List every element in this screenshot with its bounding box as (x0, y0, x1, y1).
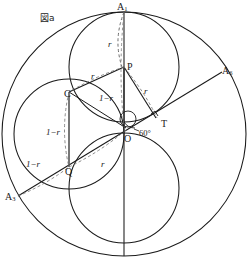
figure-container: 図a A1 A6 A3 P C T O Q r r r 1−r 1−r 1−r … (0, 0, 248, 268)
caption-box-glyph: 図a (40, 13, 55, 23)
point-t: T (161, 119, 167, 129)
point-p: P (127, 62, 133, 72)
figure-caption: 図a (40, 14, 55, 24)
length-r-qo: r (101, 160, 105, 169)
length-r-a1p: r (108, 40, 112, 49)
length-r-pt: r (144, 87, 148, 96)
point-c: C (64, 89, 71, 99)
length-r-pc: r (91, 72, 95, 81)
segment-c-to-o (69, 92, 126, 128)
vertex-a3-subscript: 3 (12, 195, 15, 202)
vertex-a1-subscript: 1 (124, 5, 127, 12)
angle-60-degrees: 60° (139, 129, 151, 138)
length-one-minus-r-a3q: 1−r (26, 160, 40, 169)
vertex-a6-subscript: 6 (229, 69, 232, 76)
vertex-a1: A1 (117, 2, 127, 13)
length-one-minus-r-cq: 1−r (46, 128, 60, 137)
length-one-minus-r-po: 1−r (99, 94, 113, 103)
point-o: O (124, 134, 131, 144)
vertex-a6: A6 (222, 66, 232, 77)
segment-p-to-t (124, 67, 156, 118)
point-q: Q (65, 167, 72, 177)
vertex-a3: A3 (5, 192, 15, 203)
